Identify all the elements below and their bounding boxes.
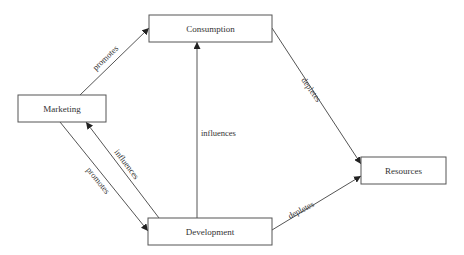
node-label: Development bbox=[186, 227, 235, 237]
edge-label: depletes bbox=[286, 199, 315, 221]
edge-label: influences bbox=[201, 128, 236, 138]
edge-label: promotes bbox=[90, 43, 120, 72]
node-development: Development bbox=[148, 218, 272, 245]
edge-development-depletes-resources: depletes bbox=[272, 176, 361, 230]
edge-development-influences-consumption: influences bbox=[197, 42, 236, 218]
node-resources: Resources bbox=[361, 157, 446, 184]
node-marketing: Marketing bbox=[18, 95, 106, 122]
edge-marketing-promotes-consumption: promotes bbox=[80, 28, 149, 95]
node-label: Consumption bbox=[186, 24, 235, 34]
node-consumption: Consumption bbox=[149, 15, 272, 42]
node-label: Resources bbox=[385, 166, 422, 176]
node-label: Marketing bbox=[43, 104, 81, 114]
edge-consumption-depletes-resources: depletes bbox=[272, 28, 361, 164]
edge-label: depletes bbox=[299, 75, 323, 104]
diagram-canvas: promotes promotes influences influences … bbox=[0, 0, 464, 255]
